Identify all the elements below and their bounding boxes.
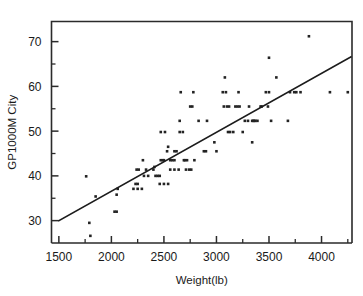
data-point <box>142 159 145 162</box>
data-point <box>179 91 182 94</box>
data-point <box>186 159 189 162</box>
data-point <box>89 235 92 238</box>
data-point <box>177 168 180 171</box>
data-point <box>88 222 91 225</box>
data-point <box>329 91 332 94</box>
data-point <box>267 105 270 108</box>
data-point <box>232 131 235 134</box>
data-point <box>225 91 228 94</box>
data-point <box>158 175 161 178</box>
data-point <box>191 105 194 108</box>
data-point <box>192 91 195 94</box>
data-point <box>178 131 181 134</box>
plot-frame <box>52 22 353 244</box>
y-tick-label: 70 <box>28 35 42 49</box>
x-tick-label: 4000 <box>308 250 335 264</box>
data-point <box>182 131 185 134</box>
data-point <box>94 195 97 198</box>
x-tick-label: 2000 <box>98 250 125 264</box>
y-axis-tick-labels: 3040506070 <box>28 35 42 228</box>
data-point <box>167 145 170 148</box>
data-point <box>163 183 166 186</box>
data-point <box>197 120 200 123</box>
data-point <box>223 105 226 108</box>
data-point <box>206 120 209 123</box>
chart-canvas: 150020002500300035004000 3040506070 Weig… <box>0 0 363 296</box>
data-point <box>167 183 170 186</box>
x-axis-tick-labels: 150020002500300035004000 <box>46 250 336 264</box>
data-point <box>229 131 232 134</box>
y-tick-label: 30 <box>28 214 42 228</box>
data-point <box>299 91 302 94</box>
y-tick-label: 50 <box>28 125 42 139</box>
x-tick-label: 2500 <box>151 250 178 264</box>
data-point <box>265 91 268 94</box>
data-point <box>275 76 278 79</box>
data-point <box>169 168 172 171</box>
data-point <box>251 141 254 144</box>
data-point <box>136 188 139 191</box>
data-point <box>270 120 273 123</box>
y-axis-title: GP1000M City <box>6 95 18 170</box>
data-point <box>185 168 188 171</box>
data-point <box>159 131 162 134</box>
data-point <box>166 150 169 153</box>
data-point <box>308 35 311 38</box>
data-point <box>141 188 144 191</box>
data-point <box>158 183 161 186</box>
data-point <box>215 150 218 153</box>
data-point <box>295 91 298 94</box>
data-point <box>136 183 139 186</box>
data-point <box>193 159 196 162</box>
data-point <box>287 120 290 123</box>
data-point <box>178 120 181 123</box>
data-point <box>268 56 271 59</box>
x-tick-label: 3500 <box>256 250 283 264</box>
data-point <box>85 175 88 178</box>
data-point <box>237 91 240 94</box>
data-point <box>268 91 271 94</box>
data-point <box>213 141 216 144</box>
regression-line <box>59 57 351 221</box>
data-point <box>205 150 208 153</box>
y-tick-label: 40 <box>28 169 42 183</box>
data-point <box>132 188 135 191</box>
x-tick-label: 3000 <box>203 250 230 264</box>
data-point <box>247 120 250 123</box>
data-point <box>244 120 247 123</box>
data-point <box>228 105 231 108</box>
data-point <box>224 76 227 79</box>
y-axis-ticks <box>52 42 59 221</box>
data-point <box>256 120 259 123</box>
data-point <box>147 175 150 178</box>
data-point <box>221 91 224 94</box>
data-point <box>173 168 176 171</box>
data-point <box>346 91 349 94</box>
data-point <box>173 159 176 162</box>
data-point <box>115 193 118 196</box>
data-point <box>238 105 241 108</box>
x-axis-ticks <box>59 236 348 243</box>
data-points-group <box>85 35 349 237</box>
data-point <box>190 168 193 171</box>
scatter-plot-figure: 150020002500300035004000 3040506070 Weig… <box>0 0 363 296</box>
x-axis-title: Weight(lb) <box>176 274 228 286</box>
y-tick-label: 60 <box>28 80 42 94</box>
data-point <box>241 131 244 134</box>
axis-frame-path <box>52 22 353 244</box>
x-tick-label: 1500 <box>46 250 73 264</box>
data-point <box>175 150 178 153</box>
data-point <box>137 168 140 171</box>
data-point <box>143 175 146 178</box>
data-point <box>164 131 167 134</box>
data-point <box>115 210 118 213</box>
data-point <box>248 105 251 108</box>
